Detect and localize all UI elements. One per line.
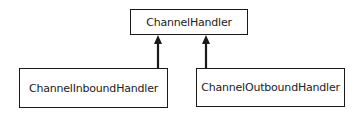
node-label: ChannelHandler (146, 16, 232, 29)
channel-outbound-handler-node: ChannelOutboundHandler (196, 68, 345, 107)
edge-outbound-to-handler (202, 35, 210, 68)
node-label: ChannelOutboundHandler (201, 81, 340, 94)
arrowhead-icon (154, 35, 162, 44)
channel-inbound-handler-node: ChannelInboundHandler (19, 68, 168, 108)
edge-inbound-to-handler (154, 35, 162, 68)
channel-handler-node: ChannelHandler (130, 9, 248, 35)
arrowhead-icon (202, 35, 210, 44)
node-label: ChannelInboundHandler (29, 82, 158, 95)
